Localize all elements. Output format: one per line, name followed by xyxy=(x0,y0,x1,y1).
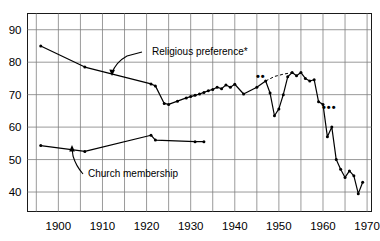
chart-container: 908070605040 190019101920193019401950196… xyxy=(0,0,380,241)
data-point xyxy=(149,82,152,85)
data-point xyxy=(149,134,152,137)
data-point xyxy=(189,95,192,98)
y-tick-label: 80 xyxy=(9,56,22,68)
data-point xyxy=(326,135,329,138)
x-tick-label: 1900 xyxy=(46,220,72,232)
data-point xyxy=(352,174,355,177)
data-point xyxy=(304,77,307,80)
data-point xyxy=(39,44,42,47)
y-tick-label: 50 xyxy=(9,154,22,166)
church-membership-arrowhead xyxy=(69,145,75,152)
data-point xyxy=(154,139,157,142)
x-tick-label: 1920 xyxy=(134,220,160,232)
data-point xyxy=(216,86,219,89)
plot-frame xyxy=(28,14,372,212)
data-point xyxy=(220,87,223,90)
data-point xyxy=(335,158,338,161)
data-point xyxy=(202,91,205,94)
data-point xyxy=(163,102,166,105)
data-point xyxy=(277,107,280,110)
series-church-membership xyxy=(39,134,205,153)
data-point xyxy=(83,66,86,69)
data-point xyxy=(194,94,197,97)
y-tick-label: 40 xyxy=(9,186,22,198)
data-point xyxy=(198,93,201,96)
data-point xyxy=(211,88,214,91)
data-point xyxy=(348,169,351,172)
data-point xyxy=(330,126,333,129)
y-tick-label: 90 xyxy=(9,24,22,36)
y-tick-label: 70 xyxy=(9,89,22,101)
data-point xyxy=(291,71,294,74)
data-point xyxy=(295,74,298,77)
religious-preference-label: Religious preference* xyxy=(152,46,248,57)
church-membership-label: Church membership xyxy=(88,168,178,179)
data-point xyxy=(299,71,302,74)
footnote-marker-two-star: •• xyxy=(256,70,266,82)
data-point xyxy=(167,103,170,106)
data-point xyxy=(273,114,276,117)
x-tick-label: 1940 xyxy=(222,220,248,232)
x-gridlines xyxy=(36,14,367,212)
y-tick-label: 60 xyxy=(9,121,22,133)
data-point xyxy=(233,83,236,86)
data-point xyxy=(154,84,157,87)
data-point xyxy=(207,89,210,92)
data-point xyxy=(185,96,188,99)
data-point xyxy=(242,93,245,96)
footnote-marker-three-star: ••• xyxy=(322,101,337,113)
series-line xyxy=(41,135,204,151)
data-point xyxy=(202,140,205,143)
data-point xyxy=(317,100,320,103)
data-point xyxy=(286,75,289,78)
data-point xyxy=(361,181,364,184)
y-axis-tick-labels: 908070605040 xyxy=(9,24,22,198)
x-tick-label: 1970 xyxy=(354,220,380,232)
church-membership-leader-line xyxy=(72,148,83,174)
data-point xyxy=(269,92,272,95)
data-point xyxy=(176,100,179,103)
data-point xyxy=(39,144,42,147)
data-point xyxy=(313,78,316,81)
data-point xyxy=(339,168,342,171)
line-chart: 908070605040 190019101920193019401950196… xyxy=(0,0,380,241)
x-tick-label: 1930 xyxy=(178,220,204,232)
data-point xyxy=(282,93,285,96)
x-tick-label: 1910 xyxy=(90,220,116,232)
data-point xyxy=(357,192,360,195)
data-point xyxy=(224,83,227,86)
data-point xyxy=(255,86,258,89)
data-point xyxy=(229,86,232,89)
data-point xyxy=(83,150,86,153)
data-point xyxy=(344,176,347,179)
x-axis-tick-labels: 19001910192019301940195019601970 xyxy=(46,220,380,232)
data-point xyxy=(194,140,197,143)
data-point xyxy=(308,80,311,83)
x-tick-label: 1950 xyxy=(266,220,292,232)
x-tick-label: 1960 xyxy=(310,220,336,232)
